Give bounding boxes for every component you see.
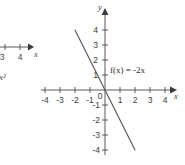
y-tick-label-4: 4 xyxy=(93,25,98,35)
fragment-tick-label-3: 3 xyxy=(0,52,5,62)
x-tick-label--2: -2 xyxy=(71,95,79,105)
fragment-expression-label: x² xyxy=(0,72,6,82)
x-axis-tick-labels: -4 -3 -2 -1 1 2 3 4 xyxy=(41,95,167,105)
x-tick-label-1: 1 xyxy=(118,95,123,105)
y-tick-label-2: 2 xyxy=(93,55,98,65)
y-tick-label-3: 3 xyxy=(93,40,98,50)
main-graph: -4 -3 -2 -1 1 2 3 4 0 4 3 2 1 -1 -2 -3 -… xyxy=(41,2,178,155)
y-tick-label--2: -2 xyxy=(92,115,100,125)
x-tick-label--4: -4 xyxy=(41,95,49,105)
y-axis-arrow-icon xyxy=(102,8,109,15)
figure-canvas: 3 4 x x² xyxy=(0,0,185,165)
x-axis-label: x xyxy=(173,91,178,101)
y-tick-label--3: -3 xyxy=(92,130,100,140)
x-tick-label--3: -3 xyxy=(56,95,64,105)
fragment-x-axis-label: x xyxy=(33,49,38,59)
y-tick-label--4: -4 xyxy=(92,145,100,155)
function-equation-label: f(x) = -2x xyxy=(110,65,146,75)
y-tick-label--1: -1 xyxy=(92,100,100,110)
x-tick-label-4: 4 xyxy=(163,95,168,105)
graph-svg: 3 4 x x² xyxy=(0,0,185,165)
x-tick-label-2: 2 xyxy=(133,95,138,105)
cropped-figure-fragment: 3 4 x x² xyxy=(0,44,38,82)
y-axis-label: y xyxy=(97,2,102,12)
x-tick-label-3: 3 xyxy=(148,95,153,105)
fragment-tick-label-4: 4 xyxy=(18,52,23,62)
